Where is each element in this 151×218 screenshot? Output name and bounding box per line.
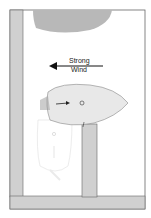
wind-label-wind: Wind — [71, 66, 87, 73]
wind-label-strong: Strong — [69, 57, 90, 65]
docking-diagram: Strong Wind — [0, 0, 151, 218]
bottom-dock — [10, 196, 145, 209]
left-pier — [10, 10, 23, 197]
piling — [82, 124, 97, 197]
